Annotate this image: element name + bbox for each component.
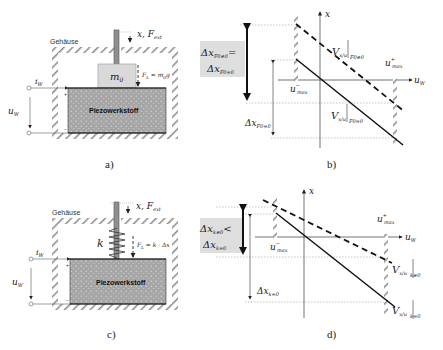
current-label: iW [35, 77, 44, 87]
ext-force-label: x, Fext [137, 29, 163, 40]
curve-f0-nonzero [296, 24, 405, 112]
umax-plus-limit [384, 234, 388, 314]
u-axis-label: uW [414, 75, 426, 86]
terminal-top [27, 86, 31, 90]
voltage-label: uW [12, 277, 24, 288]
spring-label: k [97, 237, 104, 250]
minus-sign: − [66, 297, 69, 303]
plunger-rod [114, 30, 119, 65]
u-axis-label: uW [405, 232, 417, 243]
curve-k-nonzero-label: Vx/uk≠0 [392, 264, 421, 278]
panel-c: Gehäuse k Piezowerkstoff + − x, Fext FL … [12, 201, 178, 341]
load-force-label: FL = m0g [141, 71, 170, 80]
umax-minus-limit [273, 196, 277, 240]
curve-f0-zero-label: Vx/uF0=0 [331, 110, 364, 124]
x-axis-label: x [325, 9, 330, 19]
panel-d: Δxk≠0< Δxk=0 Δxk=0 x uW u−max u+max Vx/u… [199, 186, 421, 341]
caption-d: d) [327, 328, 337, 341]
curve-f0-zero [296, 59, 403, 145]
load-force-label: FL = k · Δx [136, 241, 170, 250]
umax-minus-label: u−max [270, 240, 288, 253]
curve-k-zero [276, 213, 395, 307]
terminal-top [29, 257, 33, 261]
umax-minus-label: u−max [290, 82, 308, 95]
caption-c: c) [107, 328, 116, 341]
umax-plus-label: u+max [385, 56, 403, 69]
plus-sign: + [64, 91, 67, 97]
piezo-label: Piezowerkstoff [89, 107, 139, 114]
terminal-bottom [29, 302, 33, 306]
piezo-label: Piezowerkstoff [96, 279, 146, 286]
plus-sign: + [66, 262, 69, 268]
terminal-bottom [27, 131, 31, 135]
plunger-rod [114, 202, 119, 260]
curve-k-zero-label: Vx/uk=0 [392, 305, 421, 319]
minus-sign: − [64, 126, 67, 132]
umax-plus-label: u+max [377, 212, 395, 225]
figure: Gehäuse m0 Piezowerkstoff + − x, Fext FL… [0, 0, 443, 350]
ext-force-label: x, Fext [136, 201, 162, 212]
voltage-label: uW [8, 106, 20, 117]
delta-x-label: Δxk=0 [256, 286, 280, 297]
caption-b: b) [327, 158, 337, 171]
panel-b: ΔxF0≠0= ΔxF0=0 ΔxF0=0 x uW u−max u+max V… [200, 9, 426, 171]
x-axis-label: x [309, 186, 314, 196]
caption-a: a) [105, 158, 114, 171]
housing-label: Gehäuse [52, 209, 81, 216]
housing-label: Gehäuse [50, 38, 79, 45]
current-label: iW [36, 248, 45, 258]
delta-x-label: ΔxF0=0 [244, 118, 271, 129]
umax-plus-limit [393, 78, 397, 146]
panel-a: Gehäuse m0 Piezowerkstoff + − x, Fext FL… [8, 29, 178, 171]
